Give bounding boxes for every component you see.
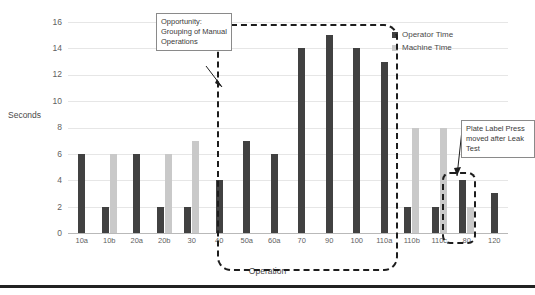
bar-group-10b	[96, 22, 124, 233]
bar-20b-operator	[157, 207, 164, 233]
y-tick-12: 12	[36, 69, 62, 79]
legend-label-machine: Machine Time	[402, 43, 452, 52]
highlight-region-plate-label-press	[442, 172, 476, 244]
y-tick-14: 14	[36, 43, 62, 53]
bar-20b-machine	[165, 154, 172, 233]
highlight-region-manual-operations	[217, 24, 398, 271]
bottom-divider	[0, 285, 535, 288]
bar-group-20b	[151, 22, 179, 233]
x-tick-30: 30	[178, 236, 206, 245]
y-tick-10: 10	[36, 96, 62, 106]
bar-chart: Seconds 16 14 12 10 8 6 4 2 0 10a10b20a2…	[0, 0, 535, 295]
bar-10a-operator	[78, 154, 85, 233]
legend-item-machine-time: Machine Time	[392, 43, 453, 52]
x-tick-10b: 10b	[96, 236, 124, 245]
bar-30-operator	[184, 207, 191, 233]
y-tick-16: 16	[36, 17, 62, 27]
legend: Operator Time Machine Time	[392, 30, 453, 56]
x-tick-20b: 20b	[151, 236, 179, 245]
bar-10b-operator	[102, 207, 109, 233]
bar-group-20a	[123, 22, 151, 233]
y-tick-0: 0	[36, 228, 62, 238]
y-tick-2: 2	[36, 202, 62, 212]
callout-grouping-opportunity: Opportunity: Grouping of Manual Operatio…	[156, 13, 232, 51]
x-tick-20a: 20a	[123, 236, 151, 245]
bar-group-10a	[68, 22, 96, 233]
bar-20a-operator	[133, 154, 140, 233]
y-tick-4: 4	[36, 175, 62, 185]
y-tick-8: 8	[36, 122, 62, 132]
legend-item-operator-time: Operator Time	[392, 30, 453, 39]
bar-110c-operator	[432, 207, 439, 233]
y-tick-6: 6	[36, 149, 62, 159]
bar-110b-machine	[412, 128, 419, 234]
x-tick-120: 120	[481, 236, 509, 245]
x-tick-10a: 10a	[68, 236, 96, 245]
x-tick-110b: 110b	[398, 236, 426, 245]
bar-group-30	[178, 22, 206, 233]
bar-120-operator	[491, 193, 498, 233]
bar-30-machine	[192, 141, 199, 233]
legend-label-operator: Operator Time	[402, 30, 453, 39]
bar-10b-machine	[110, 154, 117, 233]
bar-110b-operator	[404, 207, 411, 233]
callout-plate-label-press: Plate Label Press moved after Leak Test	[461, 120, 535, 158]
